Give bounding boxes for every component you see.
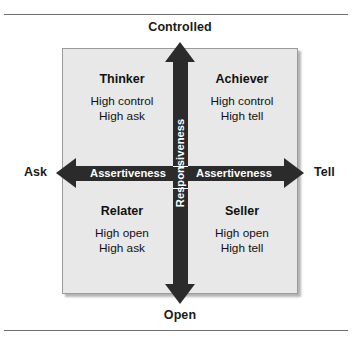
quadrant-seller: Seller High open High tell <box>186 204 298 255</box>
matrix-figure: Controlled Open Ask Tell Thinker High co… <box>0 0 352 342</box>
quadrant-relater-title: Relater <box>66 204 178 219</box>
arrow-up-head-icon <box>165 42 195 62</box>
axis-end-label-ask: Ask <box>24 165 47 179</box>
quadrant-thinker-line1: High control <box>66 94 178 109</box>
horizontal-axis-label-right: Assertiveness <box>182 166 286 181</box>
quadrant-thinker-line2: High ask <box>66 109 178 124</box>
quadrant-seller-line1: High open <box>186 226 298 241</box>
arrow-right-head-icon <box>284 158 304 188</box>
quadrant-relater-line1: High open <box>66 226 178 241</box>
quadrant-achiever-line2: High tell <box>186 109 298 124</box>
bottom-divider-rule <box>4 330 348 331</box>
quadrant-relater: Relater High open High ask <box>66 204 178 255</box>
quadrant-seller-title: Seller <box>186 204 298 219</box>
axis-end-label-open: Open <box>110 308 250 322</box>
quadrant-seller-line2: High tell <box>186 241 298 256</box>
quadrant-achiever: Achiever High control High tell <box>186 72 298 123</box>
axis-end-label-tell: Tell <box>314 165 335 179</box>
quadrant-relater-line2: High ask <box>66 241 178 256</box>
arrow-down-head-icon <box>165 284 195 304</box>
quadrant-thinker: Thinker High control High ask <box>66 72 178 123</box>
vertical-axis-label: Responsiveness <box>174 85 186 241</box>
quadrant-thinker-title: Thinker <box>66 72 178 87</box>
quadrant-achiever-line1: High control <box>186 94 298 109</box>
axis-end-label-controlled: Controlled <box>110 20 250 34</box>
top-divider-rule <box>4 14 348 15</box>
vertical-axis-arrow: Responsiveness <box>165 42 195 304</box>
quadrant-achiever-title: Achiever <box>186 72 298 87</box>
arrow-left-head-icon <box>56 158 76 188</box>
